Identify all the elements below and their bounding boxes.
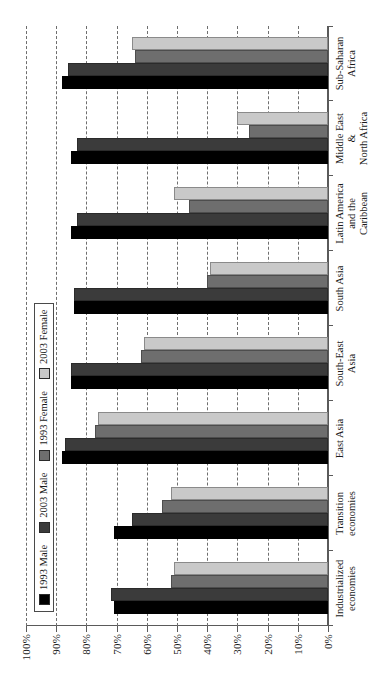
category-label: Latin America and the Caribbean (334, 176, 370, 251)
y-axis-tick (56, 626, 57, 632)
bar[interactable] (71, 377, 328, 390)
y-axis-label: 20% (262, 634, 274, 655)
bar[interactable] (171, 488, 328, 501)
y-axis-tick (86, 626, 87, 632)
gridline (328, 26, 329, 626)
bar[interactable] (68, 64, 328, 77)
y-axis-tick (26, 626, 27, 632)
legend-label: 2003 Female (38, 310, 50, 365)
bar[interactable] (74, 289, 328, 302)
bar[interactable] (62, 77, 328, 90)
legend-item[interactable]: 1993 Male (38, 545, 50, 605)
bar[interactable] (114, 602, 328, 615)
legend-swatch-icon (39, 522, 50, 533)
bar-group: Sub-Saharan Africa (26, 26, 328, 101)
x-axis-tick (328, 26, 333, 27)
bar[interactable] (189, 201, 328, 214)
bar[interactable] (207, 276, 328, 289)
bar[interactable] (162, 501, 328, 514)
category-label: East Asia (334, 401, 346, 476)
category-label: South-East Asia (334, 326, 358, 401)
bars (26, 101, 328, 176)
bar[interactable] (132, 514, 328, 527)
bars (26, 251, 328, 326)
chart-frame: 0%10%20%30%40%50%60%70%80%90%100% Indust… (0, 0, 381, 684)
y-axis-label: 60% (141, 634, 153, 655)
bar[interactable] (114, 527, 328, 540)
y-axis-label: 70% (111, 634, 123, 655)
y-axis-tick (207, 626, 208, 632)
y-axis-tick (328, 626, 329, 632)
legend-item[interactable]: 1993 Female (38, 391, 50, 461)
bar[interactable] (95, 426, 328, 439)
bar[interactable] (171, 576, 328, 589)
bar[interactable] (77, 139, 328, 152)
bar-group: Transition economies (26, 476, 328, 551)
bars (26, 476, 328, 551)
bar[interactable] (74, 302, 328, 315)
bar-group: South-East Asia (26, 326, 328, 401)
x-axis-tick (328, 550, 333, 551)
category-label: Transition economies (334, 476, 358, 551)
y-axis-tick (177, 626, 178, 632)
bar[interactable] (71, 152, 328, 165)
bar[interactable] (144, 338, 328, 351)
bar-group: East Asia (26, 401, 328, 476)
bar[interactable] (98, 413, 328, 426)
y-axis-label: 40% (201, 634, 213, 655)
bar[interactable] (71, 227, 328, 240)
bar-group: South Asia (26, 251, 328, 326)
x-axis-tick (328, 250, 333, 251)
category-label: Industrialized economies (334, 551, 358, 626)
y-axis-label: 10% (292, 634, 304, 655)
x-axis-tick (328, 325, 333, 326)
legend-label: 1993 Female (38, 391, 50, 446)
y-axis-tick (298, 626, 299, 632)
x-axis-tick (328, 625, 333, 626)
chart-legend: 1993 Male2003 Male1993 Female2003 Female (34, 303, 54, 612)
bar[interactable] (174, 563, 328, 576)
y-axis-tick (268, 626, 269, 632)
bar[interactable] (111, 589, 328, 602)
bars (26, 551, 328, 626)
bar[interactable] (65, 439, 328, 452)
bar-group: Middle East & North Africa (26, 101, 328, 176)
legend-item[interactable]: 2003 Female (38, 310, 50, 380)
legend-item[interactable]: 2003 Male (38, 473, 50, 533)
bar-group: Industrialized economies (26, 551, 328, 626)
bars (26, 176, 328, 251)
bar[interactable] (249, 126, 328, 139)
x-axis-tick (328, 400, 333, 401)
bar[interactable] (210, 263, 328, 276)
category-label: Middle East & North Africa (334, 101, 370, 176)
bar[interactable] (71, 364, 328, 377)
bars (26, 26, 328, 101)
y-axis-label: 30% (231, 634, 243, 655)
bar[interactable] (132, 38, 328, 51)
y-axis-label: 50% (171, 634, 183, 655)
x-axis-tick (328, 175, 333, 176)
category-label: South Asia (334, 251, 346, 326)
bars (26, 401, 328, 476)
bar-group: Latin America and the Caribbean (26, 176, 328, 251)
y-axis-label: 100% (20, 634, 32, 660)
y-axis-tick (117, 626, 118, 632)
bar[interactable] (237, 113, 328, 126)
bar-groups: Industrialized economiesTransition econo… (26, 26, 328, 626)
bars (26, 326, 328, 401)
bar[interactable] (135, 51, 328, 64)
legend-label: 2003 Male (38, 473, 50, 518)
bar[interactable] (141, 351, 328, 364)
legend-label: 1993 Male (38, 545, 50, 590)
legend-swatch-icon (39, 368, 50, 379)
plot-area: 0%10%20%30%40%50%60%70%80%90%100% Indust… (26, 26, 328, 626)
y-axis-label: 0% (322, 634, 334, 649)
bar[interactable] (77, 214, 328, 227)
legend-swatch-icon (39, 450, 50, 461)
y-axis-tick (147, 626, 148, 632)
bar[interactable] (174, 188, 328, 201)
y-axis-tick (237, 626, 238, 632)
x-axis-tick (328, 100, 333, 101)
bar[interactable] (62, 452, 328, 465)
x-axis-tick (328, 475, 333, 476)
